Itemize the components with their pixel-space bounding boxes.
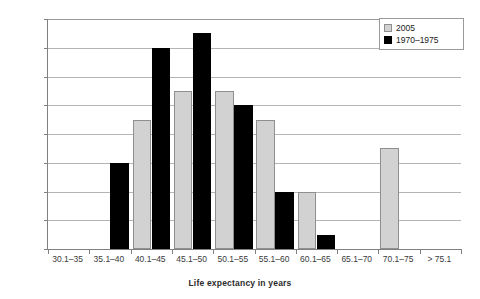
y-tick-mark-16 bbox=[44, 19, 48, 20]
legend-label-2005: 2005 bbox=[396, 23, 415, 33]
bar-1970-1975-4 bbox=[234, 105, 253, 249]
bar-1970-1975-1 bbox=[110, 163, 129, 249]
bar-2005-3 bbox=[174, 91, 193, 249]
bar-1970-1975-3 bbox=[193, 33, 212, 249]
legend-swatch-1970-1975 bbox=[384, 36, 392, 44]
bar-2005-4 bbox=[215, 91, 234, 249]
legend-label-1970-1975: 1970–1975 bbox=[396, 35, 439, 45]
y-tick-mark-12 bbox=[44, 77, 48, 78]
legend-item-1970-1975: 1970–1975 bbox=[384, 34, 459, 46]
y-tick-mark-8 bbox=[44, 134, 48, 135]
y-tick-mark-6 bbox=[44, 163, 48, 164]
gridline-8 bbox=[48, 134, 461, 135]
plot-area bbox=[47, 19, 461, 250]
chart-figure: Frequency Life expectancy in years 2005 … bbox=[0, 0, 480, 299]
bar-2005-6 bbox=[298, 192, 317, 250]
legend: 2005 1970–1975 bbox=[379, 18, 464, 50]
legend-swatch-2005 bbox=[384, 24, 392, 32]
gridline-10 bbox=[48, 105, 461, 106]
bar-1970-1975-6 bbox=[317, 235, 336, 249]
y-tick-mark-4 bbox=[44, 192, 48, 193]
gridline-12 bbox=[48, 77, 461, 78]
bar-2005-5 bbox=[256, 120, 275, 249]
x-category-label-9: > 75.1 bbox=[409, 254, 469, 264]
x-axis-title: Life expectancy in years bbox=[0, 278, 480, 288]
bar-1970-1975-2 bbox=[152, 48, 171, 249]
y-tick-mark-10 bbox=[44, 105, 48, 106]
bar-2005-8 bbox=[380, 148, 399, 249]
y-tick-mark-14 bbox=[44, 48, 48, 49]
y-tick-mark-2 bbox=[44, 220, 48, 221]
bar-2005-2 bbox=[133, 120, 152, 249]
legend-item-2005: 2005 bbox=[384, 22, 459, 34]
bar-1970-1975-5 bbox=[275, 192, 294, 250]
